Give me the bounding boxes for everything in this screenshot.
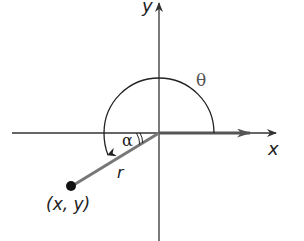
diagram-canvas: y x θ α r (x, y) xyxy=(0,0,304,241)
alpha-angle-mark-2 xyxy=(137,133,140,145)
x-axis-label: x xyxy=(267,138,279,159)
y-axis-label: y xyxy=(141,0,153,16)
terminal-side-r xyxy=(72,133,159,186)
alpha-label: α xyxy=(122,131,133,150)
theta-label: θ xyxy=(196,70,206,90)
point-xy-dot xyxy=(66,181,76,191)
point-label: (x, y) xyxy=(46,194,90,214)
alpha-angle-mark xyxy=(140,133,143,143)
radius-label: r xyxy=(117,163,125,182)
